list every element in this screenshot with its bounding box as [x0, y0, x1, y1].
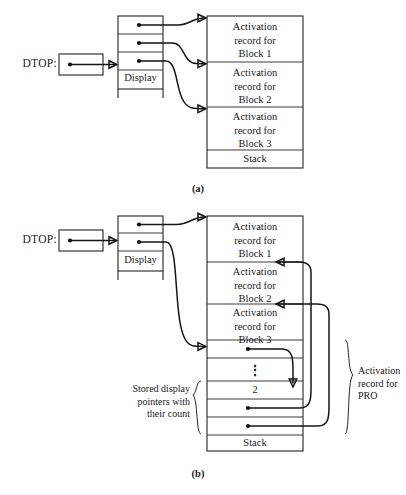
stack-cell-b-1-line2: record for: [207, 279, 303, 293]
display-label-a: Display: [118, 72, 163, 83]
stack-cell-b-0-line3: Block 1: [207, 247, 303, 261]
stack-cell-b-1-line3: Block 2: [207, 292, 303, 306]
stack-cell-b-0-line2: record for: [207, 234, 303, 248]
caption-b: (b): [178, 468, 218, 479]
stack-cell-a-2-line1: Activation: [207, 110, 303, 124]
activation-record-pro-line2: record for: [358, 378, 406, 391]
display-link-b-0: [139, 217, 204, 225]
stack-cell-a-0: Activation record for Block 1: [207, 20, 303, 61]
stack-cell-b-1-line1: Activation: [207, 265, 303, 279]
activation-record-pro-note: Activation record for PRO: [358, 365, 406, 403]
stack-label-b: Stack: [207, 437, 303, 448]
activation-record-pro-line1: Activation: [358, 365, 406, 378]
figure-svg: [0, 0, 406, 495]
stored-pointers-brace: [193, 381, 201, 434]
stored-display-pointers-note-line1: Stored display: [102, 383, 190, 396]
stack-cell-a-1-line2: record for: [207, 80, 303, 94]
stack-cell-b-2-line3: Block 3: [207, 333, 303, 347]
stack-cell-a-2-line3: Block 3: [207, 137, 303, 151]
caption-a: (a): [178, 183, 218, 194]
stored-display-pointers-note: Stored display pointers with their count: [102, 383, 190, 421]
stack-cell-b-2-line2: record for: [207, 320, 303, 334]
dtop-label-a: DTOP:: [11, 57, 57, 69]
display-link-a-2: [139, 61, 204, 109]
display-link-a-0: [139, 18, 204, 25]
stack-cell-b-0-line1: Activation: [207, 220, 303, 234]
stack-cell-b-2: Activation record for Block 3: [207, 306, 303, 347]
stack-cell-a-1-line1: Activation: [207, 66, 303, 80]
stack-cell-a-0-line2: record for: [207, 34, 303, 48]
stack-cell-a-1-line3: Block 2: [207, 93, 303, 107]
stack-cell-a-2: Activation record for Block 3: [207, 110, 303, 151]
stored-display-pointers-note-line3: their count: [102, 408, 190, 421]
stack-cell-a-1: Activation record for Block 2: [207, 66, 303, 107]
stored-display-pointers-note-line2: pointers with: [102, 396, 190, 409]
stack-count-cell-b: 2: [207, 384, 303, 395]
stack-cell-b-0: Activation record for Block 1: [207, 220, 303, 261]
stack-ellipsis-cell-b: ⋮: [207, 362, 303, 379]
activation-record-pro-line3: PRO: [358, 390, 406, 403]
stack-cell-b-1: Activation record for Block 2: [207, 265, 303, 306]
dtop-label-b: DTOP:: [11, 233, 57, 245]
stack-cell-b-2-line1: Activation: [207, 306, 303, 320]
stack-cell-a-0-line1: Activation: [207, 20, 303, 34]
stack-cell-a-2-line2: record for: [207, 124, 303, 138]
activation-record-pro-brace: [345, 340, 353, 434]
display-label-b: Display: [118, 254, 163, 265]
stack-cell-a-0-line3: Block 1: [207, 47, 303, 61]
figure-container: DTOP: Display Activation record for Bloc…: [0, 0, 406, 495]
stack-label-a: Stack: [207, 153, 303, 164]
